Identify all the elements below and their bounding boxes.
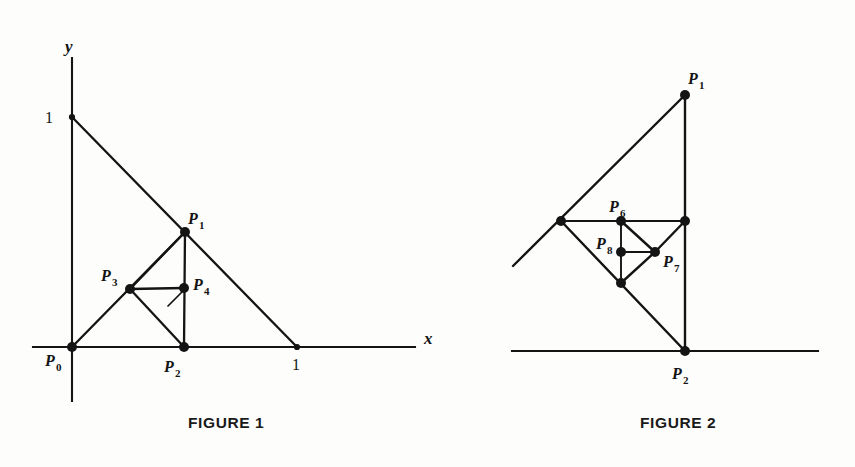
point-label-p0: P0 [44,352,62,373]
figure-1-axes [33,58,415,401]
svg-text:P: P [44,352,55,369]
segment-right-angle-tick [168,291,183,306]
segment-p1-p3 [130,232,185,289]
svg-text:P: P [671,365,682,382]
svg-text:P: P [100,267,111,284]
svg-text:0: 0 [56,361,62,373]
svg-text:8: 8 [607,244,613,256]
svg-text:P: P [163,358,174,375]
svg-text:2: 2 [683,374,689,386]
x-axis-label: x [423,329,433,348]
point-marker-p1 [180,227,190,237]
figure-2-caption: FIGURE 2 [640,414,716,432]
segment-p6-p7 [621,221,655,252]
figure-2-drawing: P1P2P6P7P8 [512,70,818,386]
point-label-p4: P4 [192,276,210,297]
point-label-p1: P1 [187,210,205,231]
segment-p3-p4 [130,288,184,289]
point-label-p7: P7 [662,253,680,274]
point-marker-p7 [650,247,660,257]
x-axis-tick-label-1: 1 [292,356,300,373]
y-axis-tick-label-1: 1 [45,109,53,126]
svg-text:3: 3 [112,276,118,288]
point-marker-v-left [556,216,566,226]
svg-text:P: P [187,210,198,227]
point-marker-p1 [680,90,690,100]
point-label-p2: P2 [671,365,689,386]
point-marker-p2 [179,342,189,352]
x-axis-unit-point [294,344,300,350]
point-label-p1: P1 [687,70,705,91]
point-marker-p0 [67,342,77,352]
segment-p7-vbottom [621,252,655,283]
point-marker-p4 [179,283,189,293]
svg-text:2: 2 [175,367,181,379]
point-label-p8: P8 [595,235,613,256]
point-label-p3: P3 [100,267,118,288]
svg-text:P: P [687,70,698,87]
figure-2-points [556,90,690,356]
figure-1-caption: FIGURE 1 [188,414,264,432]
point-marker-p8 [616,247,626,257]
svg-text:1: 1 [699,79,705,91]
svg-text:6: 6 [620,207,626,219]
point-label-p2: P2 [163,358,181,379]
y-axis-label: y [63,37,73,56]
figures-svg-canvas: P0P1P2P3P4 x y 1 1 P1P2P6P7P8 [0,0,855,467]
svg-text:1: 1 [199,219,205,231]
point-label-p6: P6 [608,198,626,219]
point-marker-p3 [125,284,135,294]
point-marker-v-right [680,216,690,226]
svg-text:7: 7 [674,262,680,274]
figure-sheet: P0P1P2P3P4 x y 1 1 P1P2P6P7P8 FIGURE 1 F… [0,0,855,467]
svg-text:P: P [608,198,619,215]
y-axis-unit-point [69,114,75,120]
svg-text:4: 4 [204,285,210,297]
svg-text:P: P [662,253,673,270]
segment-vright-p7 [655,221,685,252]
point-marker-v-bottom [616,278,626,288]
svg-text:P: P [192,276,203,293]
figure-2-segments [513,95,685,351]
point-marker-p2 [680,346,690,356]
svg-text:P: P [595,235,606,252]
figure-1-drawing: P0P1P2P3P4 x y 1 1 [33,37,433,401]
figure-2-point-labels: P1P2P6P7P8 [595,70,705,386]
